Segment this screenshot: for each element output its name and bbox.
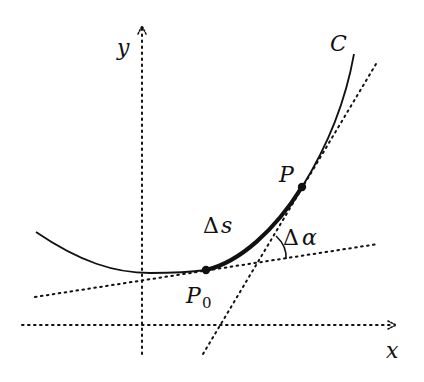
label-delta-alpha: Δ α (283, 225, 317, 250)
curvature-diagram: y x C P P 0 Δ s Δ α (0, 0, 424, 382)
point-label-p0: P 0 (185, 283, 212, 312)
curve-c-upper (302, 54, 354, 187)
point-label-p0-sub: 0 (202, 294, 212, 312)
y-axis-label: y (116, 35, 130, 60)
point-label-p0-main: P (185, 283, 202, 308)
label-delta-alpha-delta: Δ (283, 225, 299, 250)
label-delta-s-symbol: s (221, 213, 232, 238)
point-p (298, 183, 306, 191)
y-axis (138, 26, 146, 354)
x-axis-label: x (386, 338, 399, 363)
label-delta-s: Δ s (203, 213, 232, 238)
curve-label-c: C (330, 31, 347, 56)
x-axis (22, 321, 396, 329)
point-label-p: P (278, 162, 295, 187)
label-delta-s-delta: Δ (203, 213, 219, 238)
curve-c (36, 232, 206, 273)
tangent-line-p (203, 64, 376, 354)
point-p0 (202, 266, 210, 274)
label-delta-alpha-symbol: α (302, 225, 317, 250)
